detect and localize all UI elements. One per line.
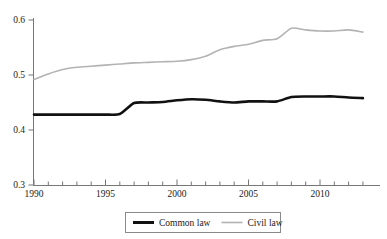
x-tick-label: 1990: [25, 189, 44, 199]
chart-legend: Common lawCivil law: [126, 213, 283, 233]
legend-label-0: Common law: [159, 218, 211, 228]
line-chart: 0.30.40.50.6 19901995200020052010 Common…: [0, 0, 387, 239]
y-tick-label: 0.5: [13, 70, 25, 80]
chart-figure: 0.30.40.50.6 19901995200020052010 Common…: [0, 0, 387, 239]
y-tick-label: 0.4: [13, 125, 25, 135]
chart-background: [0, 0, 387, 239]
legend-label-1: Civil law: [248, 218, 283, 228]
x-tick-label: 2010: [311, 189, 330, 199]
y-tick-label: 0.3: [13, 180, 25, 190]
x-tick-label: 1995: [96, 189, 115, 199]
x-tick-label: 2000: [168, 189, 187, 199]
x-tick-label: 2005: [239, 189, 258, 199]
y-tick-label: 0.6: [13, 15, 25, 25]
